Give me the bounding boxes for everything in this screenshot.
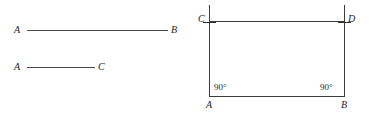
segment-ab-end-label: B (171, 25, 177, 35)
vertex-label-a: A (206, 100, 212, 110)
vertex-label-d: D (348, 14, 355, 24)
segment-ab-start-label: A (14, 25, 20, 35)
geometry-figure: A B A C C D A B 90° 90° (0, 0, 375, 118)
rectangle-bottom-side (209, 96, 345, 97)
segment-ac-start-label: A (14, 62, 20, 72)
left-panel-segments: A B A C (0, 0, 188, 118)
rectangle-left-side (209, 5, 210, 96)
angle-label-at-a: 90° (214, 83, 227, 92)
segment-ac-end-label: C (98, 62, 105, 72)
rectangle-right-side (344, 5, 345, 96)
vertex-label-c: C (198, 14, 205, 24)
segment-ac-line (27, 67, 95, 68)
angle-label-at-b: 90° (320, 83, 333, 92)
rectangle-top-side (209, 21, 345, 22)
vertex-label-b: B (341, 100, 347, 110)
right-panel-rectangle: C D A B 90° 90° (188, 0, 375, 118)
segment-ab-line (27, 30, 168, 31)
